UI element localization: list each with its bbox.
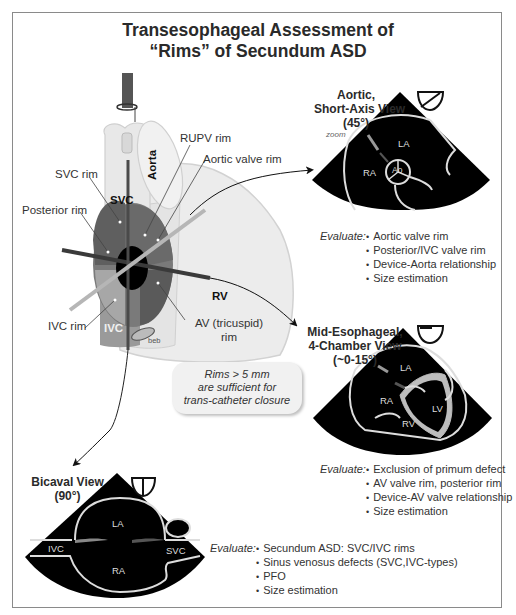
ivc-label: IVC: [104, 322, 123, 334]
probe-orientation-icon-45: [418, 92, 443, 110]
four-chamber-ra-label: RA: [380, 395, 393, 406]
rv-label: RV: [212, 290, 228, 302]
evaluate-item: Exclusion of primum defect: [366, 463, 512, 477]
arrow-to-bicaval-view: [74, 430, 110, 465]
four-chamber-view-title: Mid-Esophageal, 4-Chamber View (~0-15°): [305, 325, 405, 367]
bicaval-svc-label: SVC: [166, 545, 186, 556]
evaluate-item: Size estimation: [256, 584, 458, 598]
aortic-ra-label: RA: [363, 167, 376, 178]
asd-defect: [116, 246, 148, 290]
aortic-valve-rim-label: Aortic valve rim: [203, 153, 282, 165]
svc-label: SVC: [110, 194, 134, 206]
probe-orientation-icon-0: [418, 326, 443, 343]
aorta-label: Aorta: [146, 150, 158, 180]
beb-label: beb: [148, 336, 161, 345]
evaluate-item: Device-AV valve relationship: [366, 491, 512, 505]
ivc-rim-label: IVC rim: [48, 320, 86, 332]
evaluate-item: Sinus venosus defects (SVC,IVC-types): [256, 556, 458, 570]
probe-shaft: [122, 73, 133, 108]
evaluate-item: PFO: [256, 570, 458, 584]
posterior-rim-label: Posterior rim: [22, 204, 87, 216]
aortic-la-label: LA: [398, 138, 410, 149]
bicaval-la-label: LA: [112, 518, 124, 529]
evaluate-item: Size estimation: [366, 505, 512, 519]
evaluate-item: Posterior/IVC valve rim: [366, 244, 496, 258]
aortic-ao-label: Ao: [392, 165, 402, 175]
bicaval-ivc-label: IVC: [48, 543, 64, 554]
av-rim-label: AV (tricuspid) rim: [187, 316, 271, 344]
rupv-rim-label: RUPV rim: [180, 132, 231, 144]
diagram-artwork: [0, 0, 516, 615]
evaluate-item: Size estimation: [366, 272, 496, 286]
four-chamber-rv-label: RV: [402, 418, 415, 429]
zoom-note: zoom: [326, 130, 346, 139]
aortic-sax-view-title: Aortic, Short-Axis View (45°): [314, 88, 398, 130]
four-chamber-lv-label: LV: [432, 403, 443, 414]
evaluate-item: Aortic valve rim: [366, 230, 496, 244]
svc-rim-label: SVC rim: [55, 168, 98, 180]
evaluate-item: Secundum ASD: SVC/IVC rims: [256, 542, 458, 556]
evaluate-item: AV valve rim, posterior rim: [366, 477, 512, 491]
evaluate-item: Device-Aorta relationship: [366, 258, 496, 272]
bicaval-ra-label: RA: [112, 565, 125, 576]
rims-note-box: Rims > 5 mm are sufficient for trans-cat…: [172, 362, 302, 414]
four-chamber-la-label: LA: [400, 362, 412, 373]
bicaval-view-title: Bicaval View (90°): [30, 475, 105, 503]
